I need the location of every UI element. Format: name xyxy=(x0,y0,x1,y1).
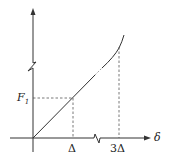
transition-segment xyxy=(95,68,102,75)
f1-subscript: 1 xyxy=(25,98,29,106)
x-axis-label: δ xyxy=(154,132,161,143)
diagram-canvas xyxy=(0,0,170,166)
y-axis-break-icon xyxy=(28,62,36,71)
force-displacement-diagram: F1 Δ 3Δ δ xyxy=(0,0,170,166)
f1-label: F1 xyxy=(17,92,29,108)
three-delta-label: 3Δ xyxy=(110,143,125,154)
x-axis-break-icon xyxy=(94,134,100,143)
stiffening-curve xyxy=(102,35,124,68)
y-axis-arrow-icon xyxy=(31,8,36,15)
f1-text: F xyxy=(17,91,25,104)
linear-segment xyxy=(33,75,95,138)
x-axis-arrow-icon xyxy=(144,136,151,141)
delta-label: Δ xyxy=(68,143,76,154)
